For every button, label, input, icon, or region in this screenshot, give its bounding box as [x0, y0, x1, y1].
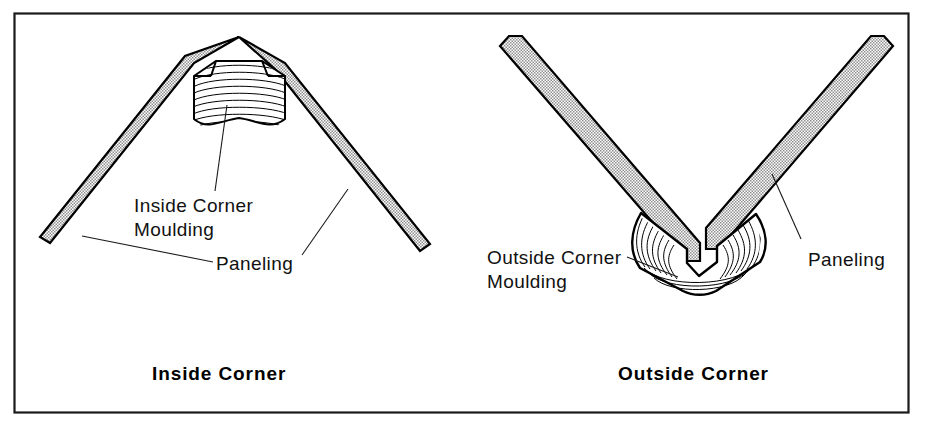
label-outside-corner-moulding-line2: Moulding [487, 271, 567, 292]
caption-outside-corner: Outside Corner [618, 363, 769, 384]
label-outside-corner-moulding-line1: Outside Corner [487, 247, 622, 268]
diagram-canvas: Inside Corner Moulding Paneling Inside C… [0, 0, 933, 428]
label-inside-paneling: Paneling [216, 253, 293, 274]
caption-inside-corner: Inside Corner [152, 363, 286, 384]
inside-corner-moulding-shape [192, 61, 289, 128]
label-outside-paneling: Paneling [808, 249, 885, 270]
label-inside-corner-moulding-line2: Moulding [134, 219, 214, 240]
label-inside-corner-moulding-line1: Inside Corner [134, 195, 254, 216]
